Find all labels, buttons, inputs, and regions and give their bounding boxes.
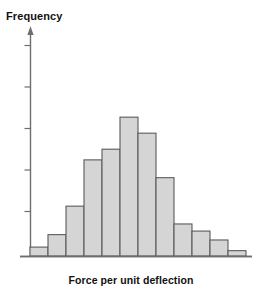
x-axis-title: Force per unit deflection — [0, 274, 262, 286]
y-axis-ticks — [25, 46, 31, 212]
histogram-bar — [84, 160, 102, 256]
histogram-bar — [138, 133, 156, 256]
histogram-plot-area — [0, 0, 262, 296]
histogram-bar — [174, 224, 192, 256]
histogram-bar — [156, 178, 174, 256]
histogram-bar — [66, 206, 84, 256]
histogram-bar — [102, 149, 120, 256]
histogram-figure: Frequency Force per unit deflection — [0, 0, 262, 296]
arrow-up-icon — [27, 26, 33, 35]
histogram-bar — [192, 231, 210, 256]
histogram-bar — [120, 117, 138, 256]
histogram-bar — [48, 235, 66, 256]
histogram-bars — [30, 117, 246, 256]
histogram-bar — [210, 240, 228, 256]
histogram-bar — [228, 251, 246, 256]
histogram-bar — [30, 247, 48, 256]
